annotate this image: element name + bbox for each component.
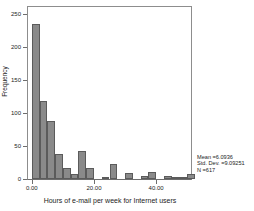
histogram-bar — [78, 151, 86, 179]
y-axis-tick-label: 50 — [14, 143, 21, 149]
x-axis-tick-label: 40.00 — [149, 185, 164, 192]
x-axis-tick — [156, 180, 157, 184]
histogram-bar — [47, 121, 55, 179]
histogram-bar — [86, 168, 94, 179]
x-axis-tick-label: 20.00 — [86, 185, 101, 192]
x-axis-tick — [94, 180, 95, 184]
histogram-bar — [63, 168, 71, 179]
y-axis-tick-label: 100 — [11, 110, 21, 116]
histogram-bar — [187, 174, 195, 179]
histogram-bar — [55, 154, 63, 179]
x-axis-title: Hours of e-mail per week for Internet us… — [14, 197, 206, 204]
histogram-bar — [141, 176, 149, 179]
statistics-box: Mean =6.0936 Std. Dev. =9.09251 N =617 — [197, 154, 254, 173]
x-axis-tick-label: 0.00 — [26, 185, 38, 192]
x-axis: 0.0020.0040.00 — [28, 180, 191, 196]
y-axis-tick-label: 150 — [11, 77, 21, 83]
histogram-bar — [40, 101, 48, 179]
histogram-bar — [102, 177, 110, 179]
stat-n: N =617 — [197, 167, 254, 173]
bars-area — [28, 7, 191, 179]
histogram-bar — [32, 24, 40, 179]
histogram-bar — [148, 172, 156, 179]
histogram-bar — [71, 174, 79, 179]
y-axis-tick-label: 250 — [11, 11, 21, 17]
histogram-bar — [172, 177, 180, 179]
histogram-bar — [179, 177, 187, 179]
histogram-bar — [110, 164, 118, 179]
histogram-bar — [164, 176, 172, 179]
histogram-bar — [125, 173, 133, 179]
y-axis-tick-label: 200 — [11, 44, 21, 50]
y-axis: 050100150200250 — [0, 0, 27, 186]
y-axis-tick-label: 0 — [18, 176, 21, 182]
histogram-chart: Frequency 050100150200250 0.0020.0040.00… — [0, 0, 254, 211]
x-axis-tick — [32, 180, 33, 184]
